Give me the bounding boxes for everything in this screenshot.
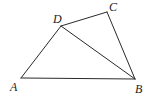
- vertex-label-a: A: [9, 80, 18, 94]
- vertex-label-d: D: [52, 12, 62, 26]
- segment-ab: [21, 78, 135, 79]
- vertex-label-c: C: [109, 0, 118, 14]
- vertex-label-b: B: [135, 82, 143, 96]
- segment-ad: [21, 26, 61, 78]
- diagram-canvas: A B C D: [0, 0, 151, 97]
- segment-dc: [61, 12, 107, 26]
- geometry-diagram: A B C D: [0, 0, 151, 97]
